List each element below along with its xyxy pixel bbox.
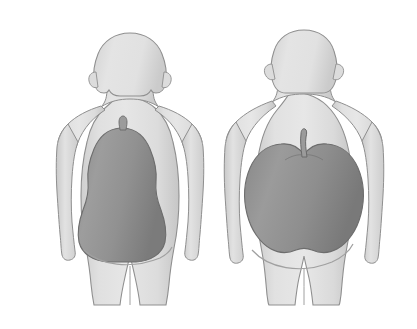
right-figure-apple-stem <box>301 129 307 157</box>
right-figure-apple-overlay <box>245 144 364 253</box>
right-figure-head <box>271 30 337 93</box>
left-figure-pear-stem <box>119 116 127 130</box>
illustration-canvas <box>0 0 417 329</box>
body-shape-illustration: Body shape comparison: pear-shaped and a… <box>0 0 417 329</box>
